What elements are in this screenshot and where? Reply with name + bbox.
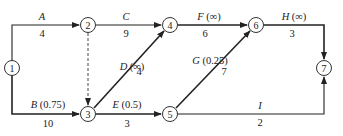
edge-I-duration: 2 [257, 117, 262, 128]
edge-F: F (∞) 6 [178, 11, 247, 39]
node-5-label: 5 [168, 109, 173, 120]
node-1-label: 1 [10, 63, 15, 74]
node-3: 3 [81, 107, 96, 122]
edge-A: A 4 [12, 11, 79, 61]
edge-B-label: B (0.75) [31, 99, 66, 111]
edge-H-label: H (∞) [281, 11, 307, 23]
edge-D-duration: 4 [136, 66, 142, 77]
node-6: 6 [249, 18, 264, 33]
node-5: 5 [163, 107, 178, 122]
edge-H-duration: 3 [289, 28, 294, 39]
edge-C-label: C [122, 11, 130, 22]
node-7-label: 7 [322, 63, 327, 74]
edge-E: E (0.5) 3 [96, 99, 161, 129]
node-2-label: 2 [86, 20, 91, 31]
edge-A-duration: 4 [39, 28, 45, 39]
edge-F-duration: 6 [202, 28, 207, 39]
edge-E-label: E (0.5) [111, 99, 142, 111]
node-1: 1 [5, 61, 20, 76]
edge-F-label: F (∞) [196, 11, 221, 23]
edge-D: D (∞) 4 [94, 31, 164, 108]
node-6-label: 6 [254, 20, 259, 31]
edge-A-label: A [38, 11, 46, 22]
edge-G-duration: 7 [221, 66, 226, 77]
edge-I: I 2 [178, 77, 324, 128]
edge-G: G (0.25) 7 [176, 31, 250, 108]
node-3-label: 3 [86, 109, 91, 120]
edge-B-duration: 10 [43, 118, 54, 129]
node-7: 7 [317, 61, 332, 76]
node-4-label: 4 [168, 20, 173, 31]
node-2: 2 [81, 18, 96, 33]
network-diagram: A 4 B (0.75) 10 C 9 D (∞) 4 E (0.5) 3 F … [0, 0, 343, 136]
edge-H: H (∞) 3 [264, 11, 324, 59]
node-4: 4 [163, 18, 178, 33]
edge-B: B (0.75) 10 [12, 75, 79, 129]
edge-E-duration: 3 [124, 118, 129, 129]
edge-C-duration: 9 [123, 28, 128, 39]
edge-I-label: I [257, 100, 262, 111]
edge-C: C 9 [96, 11, 161, 39]
